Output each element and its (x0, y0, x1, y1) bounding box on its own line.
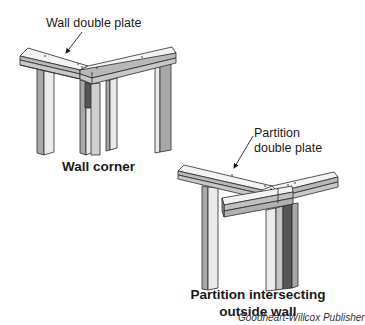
wall-corner-caption: Wall corner (62, 158, 135, 175)
wall-double-plate-label: Wall double plate (46, 16, 141, 31)
partition-intersection-drawing (178, 165, 338, 291)
partition-double-plate-leader (234, 136, 253, 168)
publisher-credit: Goodheart-Willcox Publisher (238, 312, 365, 323)
wall-corner-drawing (20, 47, 176, 155)
partition-double-plate-label: Partition double plate (254, 126, 322, 156)
partition-caption-line-1: Partition intersecting (184, 286, 332, 303)
wall-double-plate-leader (66, 32, 82, 53)
partition-label-line-2: double plate (254, 141, 322, 156)
studs-outside-wall (266, 203, 298, 291)
stud-partition-left (202, 186, 218, 290)
partition-label-line-1: Partition (254, 126, 322, 141)
